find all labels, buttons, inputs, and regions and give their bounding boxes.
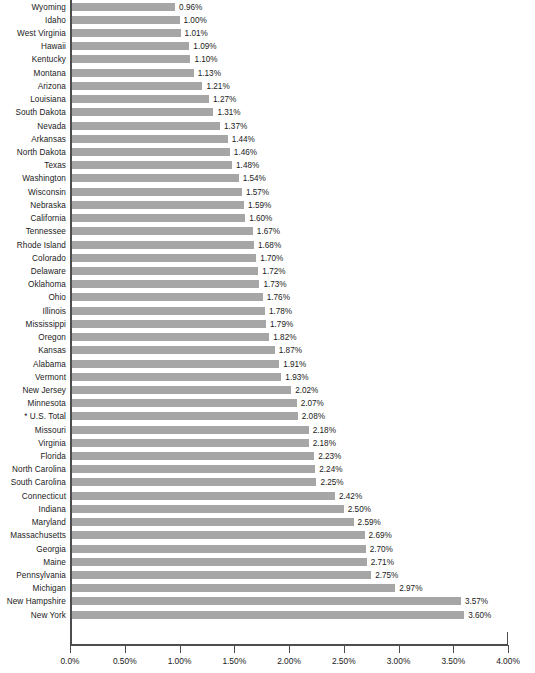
chart-row: * U.S. Total2.08% [0,410,535,423]
chart-row: Indiana2.50% [0,502,535,515]
bar [70,465,315,473]
chart-row: Alabama1.91% [0,357,535,370]
bar [70,439,309,447]
chart-row: Florida2.23% [0,449,535,462]
bar-value-label: 1.48% [232,161,259,170]
bar-track: 2.71% [70,555,535,568]
x-axis-tick-label: 3.50% [441,656,465,666]
category-label: North Carolina [12,465,66,474]
chart-row: Nebraska1.59% [0,198,535,211]
bar-value-label: 1.76% [263,293,290,302]
bar-value-label: 2.75% [371,571,398,580]
bar-track: 1.78% [70,304,535,317]
category-label: Hawaii [41,42,66,51]
chart-row: Montana1.13% [0,66,535,79]
y-axis-line [70,0,72,644]
x-axis-tick [344,645,345,653]
category-label: Kansas [38,346,66,355]
bar-track: 1.59% [70,198,535,211]
bar [70,95,209,103]
category-label: Oregon [38,333,66,342]
category-label: Maine [43,557,66,566]
bar-value-label: 1.21% [202,81,229,90]
bar [70,188,242,196]
bar-value-label: 2.71% [367,557,394,566]
category-label: Connecticut [22,491,66,500]
bar-value-label: 2.97% [395,584,422,593]
category-label: Michigan [33,584,66,593]
bar [70,3,175,11]
chart-row: New York3.60% [0,608,535,621]
bar [70,55,190,63]
bar-track: 1.27% [70,93,535,106]
bar [70,161,232,169]
bar-value-label: 1.09% [189,42,216,51]
bar-value-label: 2.42% [335,491,362,500]
chart-row: Maine2.71% [0,555,535,568]
bar [70,241,254,249]
bar [70,293,263,301]
chart-row: North Carolina2.24% [0,463,535,476]
bar-track: 1.79% [70,317,535,330]
bar-track: 2.70% [70,542,535,555]
chart-row: Oklahoma1.73% [0,278,535,291]
chart-row: California1.60% [0,212,535,225]
x-axis-tick [180,645,181,653]
bar-value-label: 1.67% [253,227,280,236]
bar-value-label: 2.24% [315,465,342,474]
category-label: Rhode Island [17,240,66,249]
category-label: Washington [22,174,66,183]
category-label: Texas [44,161,66,170]
bar-value-label: 1.73% [259,280,286,289]
chart-row: North Dakota1.46% [0,145,535,158]
bar [70,597,461,605]
chart-row: Wisconsin1.57% [0,185,535,198]
bar [70,611,464,619]
bar [70,346,275,354]
category-label: New Hampshire [7,597,66,606]
category-label: Vermont [35,372,66,381]
bar-track: 1.09% [70,40,535,53]
category-label: West Virginia [17,29,66,38]
bar-track: 1.57% [70,185,535,198]
category-label: Nevada [37,121,66,130]
chart-row: South Carolina2.25% [0,476,535,489]
bar-value-label: 1.87% [275,346,302,355]
category-label: * U.S. Total [24,412,66,421]
bar [70,201,244,209]
category-label: Montana [34,68,66,77]
category-label: Virginia [38,438,66,447]
bar-value-label: 1.79% [266,319,293,328]
x-axis-tick-label: 2.50% [332,656,356,666]
bar-value-label: 1.68% [254,240,281,249]
bar [70,108,213,116]
chart-row: Arizona1.21% [0,79,535,92]
chart-row: Louisiana1.27% [0,93,535,106]
bar [70,505,344,513]
bar-value-label: 1.44% [228,134,255,143]
bar-track: 2.23% [70,449,535,462]
bar-track: 1.37% [70,119,535,132]
bar-value-label: 1.78% [265,306,292,315]
chart-row: Pennsylvania2.75% [0,568,535,581]
bar-track: 1.93% [70,370,535,383]
bar-value-label: 1.82% [269,333,296,342]
bar [70,148,230,156]
bar-value-label: 1.59% [244,200,271,209]
bar-track: 1.54% [70,172,535,185]
chart-row: Arkansas1.44% [0,132,535,145]
category-label: South Dakota [15,108,66,117]
bar [70,426,309,434]
x-axis-tick [399,645,400,653]
bar [70,254,256,262]
category-label: Louisiana [30,95,66,104]
bar-value-label: 2.18% [309,425,336,434]
category-label: Minnesota [27,399,66,408]
chart-row: Virginia2.18% [0,436,535,449]
bar [70,478,316,486]
chart-row: Missouri2.18% [0,423,535,436]
bar [70,29,181,37]
bar-value-label: 1.60% [245,214,272,223]
bar [70,122,220,130]
chart-row: New Hampshire3.57% [0,595,535,608]
